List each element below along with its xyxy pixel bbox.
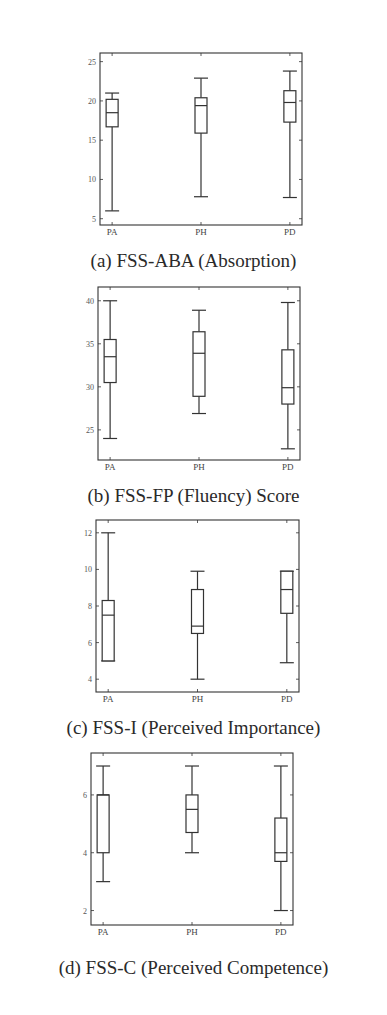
x-category-label: PD bbox=[275, 927, 287, 937]
y-tick-label: 4 bbox=[83, 849, 87, 858]
x-category-label: PA bbox=[98, 927, 109, 937]
box-pd bbox=[274, 766, 288, 911]
boxplot-competence: 246PAPHPD bbox=[0, 0, 387, 960]
x-category-label: PH bbox=[186, 927, 198, 937]
y-tick-label: 2 bbox=[83, 907, 87, 916]
box-ph bbox=[185, 766, 199, 853]
box-pa bbox=[96, 766, 110, 882]
figure-d: 246PAPHPD bbox=[0, 0, 387, 960]
y-tick-label: 6 bbox=[83, 791, 87, 800]
caption-d: (d) FSS-C (Perceived Competence) bbox=[0, 957, 387, 979]
